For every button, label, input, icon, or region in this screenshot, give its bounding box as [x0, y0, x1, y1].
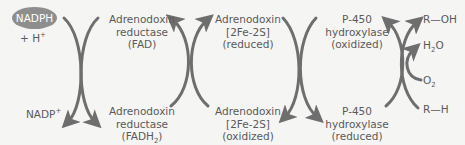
nadp-label: NADP+: [26, 107, 61, 120]
nadph-label: NADPH: [16, 12, 53, 24]
arrow-o2-to-h2o: [407, 49, 421, 80]
adrenodoxin-reductase-fad: Adrenodoxin reductase (FAD): [105, 13, 179, 51]
adrenodoxin-reduced: Adrenodoxin [2Fe-2S] (reduced): [211, 13, 285, 51]
arrow-adx-red-to-ox: [283, 18, 299, 117]
adrenodoxin-reductase-fadh2: Adrenodoxin reductase (FADH2): [105, 105, 179, 145]
nadph-ellipse: NADPH: [12, 7, 57, 29]
arrow-nadph-to-nadp: [64, 18, 81, 122]
arrow-fad-to-fadh2: [81, 18, 98, 122]
p450-reduced: P-450 hydroxylase (reduced): [320, 105, 394, 143]
arrow-ox-to-red: [191, 20, 208, 106]
arrow-p450-ox-to-red: [300, 18, 317, 117]
r-h-label: R—H: [423, 103, 449, 115]
p450-oxidized: P-450 hydroxylase (oxidized): [320, 13, 394, 51]
r-oh-label: R—OH: [423, 13, 457, 25]
h2o-label: H2O: [423, 39, 444, 54]
h-plus-label: + H+: [20, 31, 46, 44]
adrenodoxin-oxidized: Adrenodoxin [2Fe-2S] (oxidized): [211, 105, 285, 143]
o2-label: O2: [423, 74, 436, 89]
